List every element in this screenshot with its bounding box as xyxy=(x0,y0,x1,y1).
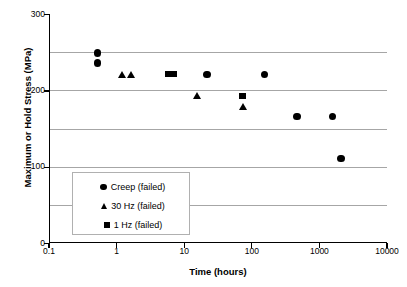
y-axis-tick-labels: 0100200300 xyxy=(13,0,45,287)
legend-item-label: 1 Hz (failed) xyxy=(113,220,163,230)
x-axis-tick-label: 1000 xyxy=(296,247,342,256)
x-axis-title: Time (hours) xyxy=(48,266,388,277)
legend-item-circle[interactable]: Creep (failed) xyxy=(73,177,191,196)
data-point-circle xyxy=(261,71,269,79)
y-axis-tick-label: 0 xyxy=(17,239,45,248)
data-point-square xyxy=(239,93,247,99)
data-point-circle xyxy=(94,59,102,67)
data-point-triangle xyxy=(193,92,201,99)
x-axis-tick-label: 0.1 xyxy=(26,247,72,256)
scatter-chart: Maximum or Hold Stress (MPa) 0100200300 … xyxy=(0,0,407,287)
x-axis-tick-label: 1 xyxy=(94,247,140,256)
y-axis-tick-label: 300 xyxy=(17,10,45,19)
data-point-circle xyxy=(94,49,102,57)
x-axis-tick-label: 100 xyxy=(229,247,275,256)
triangle-marker-icon xyxy=(99,200,110,211)
data-point-triangle xyxy=(118,71,126,78)
square-marker-icon xyxy=(102,219,113,230)
circle-marker-icon xyxy=(99,181,110,192)
legend-item-square[interactable]: 1 Hz (failed) xyxy=(73,215,191,234)
chart-legend: Creep (failed)30 Hz (failed)1 Hz (failed… xyxy=(72,172,190,235)
legend-item-triangle[interactable]: 30 Hz (failed) xyxy=(73,196,191,215)
data-point-circle xyxy=(329,113,337,121)
data-point-square xyxy=(169,71,177,77)
data-point-circle xyxy=(293,113,301,121)
x-axis-tick-label: 10000 xyxy=(364,247,407,256)
data-point-triangle xyxy=(239,103,247,110)
x-axis-tick-label: 10 xyxy=(161,247,207,256)
data-point-circle xyxy=(203,71,211,79)
legend-item-label: Creep (failed) xyxy=(110,182,166,192)
y-axis-tick-label: 100 xyxy=(17,162,45,171)
gridline xyxy=(50,129,387,130)
gridline xyxy=(50,90,387,91)
x-axis-tick-labels: 0.1110100100010000 xyxy=(0,247,407,263)
data-point-triangle xyxy=(127,71,135,78)
legend-item-label: 30 Hz (failed) xyxy=(110,201,165,211)
y-axis-tick-label: 200 xyxy=(17,86,45,95)
gridline xyxy=(50,167,387,168)
data-point-circle xyxy=(337,155,345,163)
